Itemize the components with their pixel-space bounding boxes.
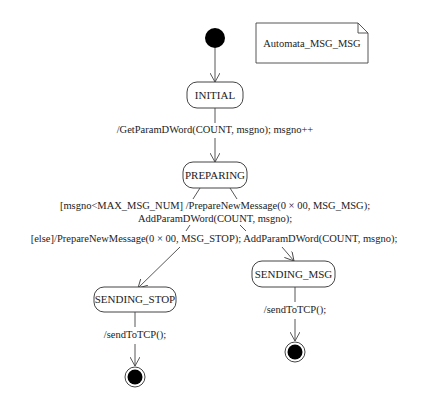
- transition-label-sending-msg-to-final: /sendToTCP();: [264, 304, 326, 316]
- state-sending-stop-label: SENDING_STOP: [95, 293, 175, 305]
- transition-preparing-to-sending-stop-start[interactable]: [193, 188, 200, 199]
- final-state-stop[interactable]: [125, 367, 145, 387]
- state-sending-msg-label: SENDING_MSG: [255, 268, 333, 280]
- state-preparing[interactable]: PREPARING: [183, 162, 247, 188]
- initial-pseudostate[interactable]: [205, 28, 225, 48]
- transition-label-sending-stop-to-final: /sendToTCP();: [104, 329, 166, 341]
- transition-label-initial-to-preparing: /GetParamDWord(COUNT, msgno); msgno++: [117, 124, 314, 136]
- transition-segment-msg-mid[interactable]: [240, 225, 246, 231]
- transition-preparing-to-sending-msg-start[interactable]: [230, 188, 237, 199]
- state-diagram: Automata_MSG_MSG INITIAL /GetParamDWord(…: [0, 0, 423, 397]
- transition-label-preparing-to-sending-msg-line2: AddParamDWord(COUNT, msgno);: [138, 213, 292, 225]
- state-initial-label: INITIAL: [195, 89, 236, 101]
- state-sending-stop[interactable]: SENDING_STOP: [94, 287, 176, 312]
- state-preparing-label: PREPARING: [185, 169, 245, 181]
- note-text: Automata_MSG_MSG: [263, 38, 361, 49]
- transition-preparing-to-sending-stop-end[interactable]: [138, 247, 180, 288]
- transition-segment-stop-mid[interactable]: [186, 225, 190, 231]
- state-sending-msg[interactable]: SENDING_MSG: [252, 261, 335, 287]
- transition-label-preparing-to-sending-msg-line1: [msgno<MAX_MSG_NUM] /PrepareNewMessage(0…: [60, 200, 370, 212]
- state-initial[interactable]: INITIAL: [187, 82, 243, 108]
- transition-preparing-to-sending-msg-end[interactable]: [282, 247, 294, 261]
- diagram-note: Automata_MSG_MSG: [256, 23, 368, 63]
- transition-label-preparing-to-sending-stop: [else]/PrepareNewMessage(0 × 00, MSG_STO…: [31, 233, 398, 245]
- final-state-msg[interactable]: [285, 342, 305, 362]
